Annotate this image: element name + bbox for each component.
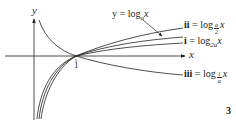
label-pointer-arrow	[143, 20, 162, 36]
label-main-curve: y = logax	[112, 9, 148, 19]
label-i-base: 2a	[210, 41, 217, 49]
label-curve-ii: ii = loga2x	[184, 20, 224, 35]
y-axis-label: y	[32, 5, 37, 16]
label-i-eq: = log	[187, 35, 210, 46]
logarithm-graph-figure: y x 1 y = logax ii = loga2x i = log2ax i…	[0, 0, 236, 123]
label-iii-base-fraction: 1a	[217, 71, 222, 84]
label-ii-base-fraction: a2	[214, 22, 219, 35]
label-curve-i: i = log2ax	[184, 36, 222, 46]
label-curve-iii: iii = log1ax	[184, 69, 227, 84]
label-iii-arg: x	[223, 68, 227, 79]
label-iii-eq: = log	[192, 68, 215, 79]
curve-iii	[39, 20, 183, 75]
label-main-arg: x	[144, 8, 148, 19]
x-axis-label: x	[189, 49, 194, 60]
curve-i	[41, 43, 183, 119]
label-ii-base-num: a	[214, 22, 219, 29]
curve-ii	[37, 28, 183, 119]
label-main-base: a	[140, 14, 144, 22]
label-iii-base-num: 1	[217, 71, 222, 78]
label-main-prefix: y = log	[112, 8, 140, 19]
label-ii-eq: = log	[190, 19, 213, 30]
label-ii-arg: x	[220, 19, 224, 30]
label-iii-base-den: a	[217, 78, 222, 84]
intercept-one-label: 1	[74, 61, 79, 70]
label-i-arg: x	[217, 35, 221, 46]
figure-number: 3	[226, 106, 231, 116]
